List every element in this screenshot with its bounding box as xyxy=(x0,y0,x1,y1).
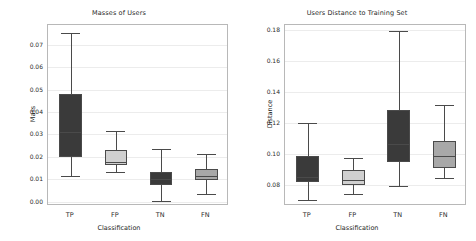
box-tp xyxy=(59,94,82,157)
whisker-cap xyxy=(61,33,80,34)
whisker-cap xyxy=(61,176,80,177)
y-axis-label-right: Distance xyxy=(266,94,274,134)
median-line xyxy=(59,132,82,133)
whisker-cap xyxy=(152,201,171,202)
box-fn xyxy=(195,169,218,180)
whisker-cap xyxy=(389,31,408,32)
gridline xyxy=(285,30,465,31)
x-tick-label-fn: FN xyxy=(439,211,448,219)
median-line xyxy=(387,144,410,145)
panel-users-distance-to-training-set: Users Distance to Training Set Distance … xyxy=(238,0,476,241)
whisker-cap xyxy=(435,105,454,106)
y-tick-label: 0.10 xyxy=(238,150,280,157)
median-line xyxy=(195,176,218,177)
whisker-cap xyxy=(197,194,216,195)
panel-masses-of-users: Masses of Users Mass Classification 0.00… xyxy=(0,0,238,241)
x-axis-label-right: Classification xyxy=(238,224,476,232)
gridline xyxy=(285,92,465,93)
chart-title-right: Users Distance to Training Set xyxy=(238,9,476,17)
gridline xyxy=(285,185,465,186)
y-tick-label: 0.00 xyxy=(0,197,43,204)
whisker-cap xyxy=(197,154,216,155)
y-tick-label: 0.03 xyxy=(0,130,43,137)
whisker-cap xyxy=(344,158,363,159)
x-tick-label-tp: TP xyxy=(303,211,311,219)
whisker-cap xyxy=(106,131,125,132)
box-fn xyxy=(433,141,456,168)
y-tick-label: 0.06 xyxy=(0,63,43,70)
y-tick-label: 0.07 xyxy=(0,41,43,48)
chart-title-left: Masses of Users xyxy=(0,9,238,17)
whisker-cap xyxy=(298,123,317,124)
x-tick-label-fp: FP xyxy=(348,211,356,219)
x-tick-label-tn: TN xyxy=(156,211,165,219)
x-axis-label-left: Classification xyxy=(0,224,238,232)
y-tick-label: 0.05 xyxy=(0,85,43,92)
gridline xyxy=(48,90,227,91)
boxplot-figure: Masses of Users Mass Classification 0.00… xyxy=(0,0,476,241)
box-tn xyxy=(387,110,410,162)
median-line xyxy=(150,179,173,180)
whisker-cap xyxy=(152,149,171,150)
x-tick-label-fn: FN xyxy=(201,211,210,219)
y-tick-label: 0.08 xyxy=(238,181,280,188)
box-fp xyxy=(342,170,365,185)
y-tick-label: 0.12 xyxy=(238,119,280,126)
whisker-cap xyxy=(298,200,317,201)
y-tick-label: 0.04 xyxy=(0,108,43,115)
y-tick-label: 0.18 xyxy=(238,26,280,33)
whisker-cap xyxy=(389,186,408,187)
median-line xyxy=(296,177,319,178)
x-tick-label-fp: FP xyxy=(111,211,119,219)
whisker-cap xyxy=(106,172,125,173)
whisker-cap xyxy=(435,178,454,179)
median-line xyxy=(342,180,365,181)
y-tick-label: 0.02 xyxy=(0,152,43,159)
plot-area-left xyxy=(47,24,228,205)
gridline xyxy=(48,157,227,158)
median-line xyxy=(433,156,456,157)
gridline xyxy=(285,61,465,62)
whisker-line xyxy=(399,31,400,186)
median-line xyxy=(105,162,128,163)
plot-area-right xyxy=(284,24,466,205)
y-tick-label: 0.01 xyxy=(0,175,43,182)
x-tick-label-tp: TP xyxy=(66,211,74,219)
gridline xyxy=(48,202,227,203)
y-tick-label: 0.16 xyxy=(238,57,280,64)
x-tick-label-tn: TN xyxy=(393,211,402,219)
whisker-cap xyxy=(344,194,363,195)
gridline xyxy=(48,45,227,46)
y-tick-label: 0.14 xyxy=(238,88,280,95)
gridline xyxy=(48,67,227,68)
